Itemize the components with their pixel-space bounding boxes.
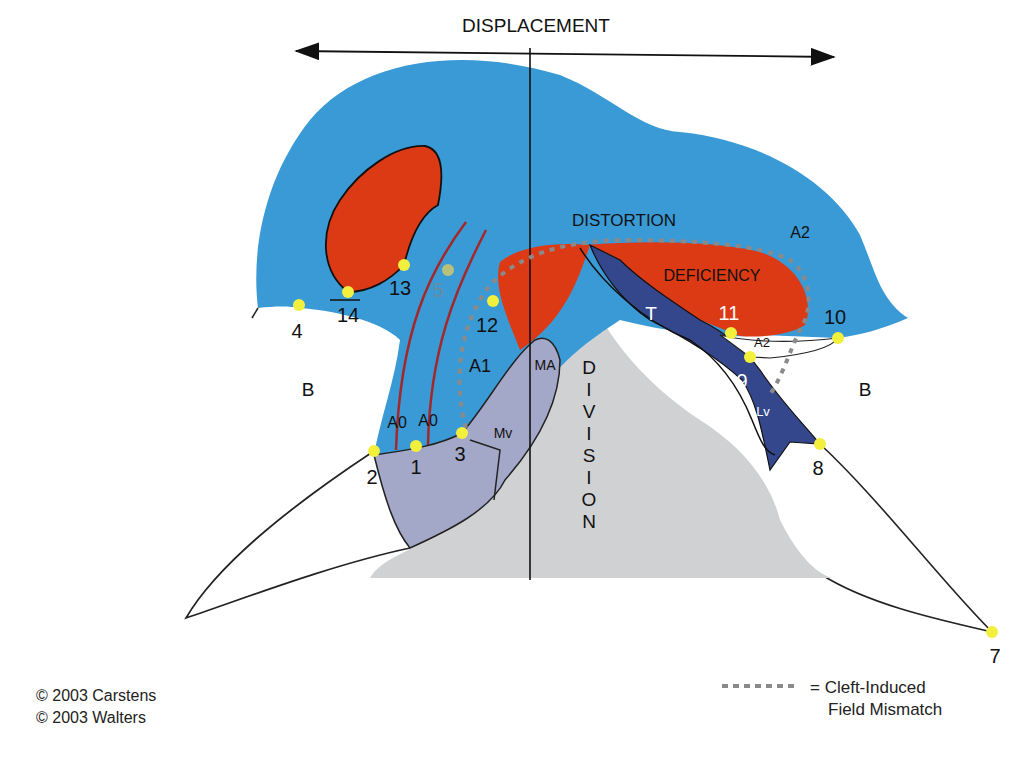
zone-a2-small: A2 [754,335,770,350]
svg-text:D: D [582,357,596,378]
point-label-2: 2 [366,466,377,488]
point-label-14: 14 [337,304,359,326]
point-label-12: 12 [476,314,498,336]
point-label-9: 9 [736,370,747,392]
zone-b-left: B [302,379,315,400]
credit-carstens: © 2003 Carstens [36,685,156,707]
point-7 [986,626,998,638]
displacement-label: DISPLACEMENT [462,15,610,36]
point-label-4: 4 [291,320,302,342]
zone-ma: MA [535,357,557,373]
zone-a2-top: A2 [790,224,810,241]
zone-a0-right: A0 [418,412,438,429]
point-4 [293,299,305,311]
point-label-3: 3 [454,443,465,465]
zone-t: T [645,303,657,324]
zone-lv: Lv [756,404,770,419]
point-3 [456,427,468,439]
svg-text:I: I [586,379,591,400]
point-label-1: 1 [410,456,421,478]
point-8 [814,438,826,450]
svg-text:N: N [582,511,596,532]
deficiency-label: DEFICIENCY [664,267,761,284]
point-9 [744,351,756,363]
svg-text:V: V [583,401,596,422]
point-10 [832,332,844,344]
point-label-13: 13 [389,277,411,299]
point-label-10: 10 [824,306,846,328]
credit-walters: © 2003 Walters [36,707,146,729]
zone-b-right: B [859,379,872,400]
point-label-5: 5 [432,279,443,301]
point-label-8: 8 [812,457,823,479]
point-5 [442,264,454,276]
legend-line-2: Field Mismatch [828,699,942,721]
zone-a1: A1 [469,356,491,376]
svg-text:O: O [582,489,597,510]
distortion-label: DISTORTION [572,211,676,230]
svg-text:I: I [586,423,591,444]
point-13 [398,259,410,271]
zone-mv: Mv [494,425,513,441]
point-2 [368,445,380,457]
zone-la: LA [722,416,738,431]
point-12 [487,295,499,307]
svg-text:I: I [586,467,591,488]
legend-line-1: = Cleft-Induced [810,677,926,699]
point-14 [342,286,354,298]
point-11 [725,327,737,339]
zone-a0-left: A0 [387,414,407,431]
cleft-field-diagram: DISPLACEMENT DISTORTION DEFICIENCY D I V… [0,0,1032,759]
displacement-arrow [296,51,834,57]
point-label-11: 11 [719,302,740,324]
point-label-7: 7 [989,645,1000,667]
svg-text:S: S [583,445,596,466]
point-1 [410,440,422,452]
